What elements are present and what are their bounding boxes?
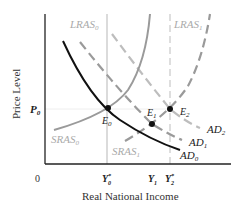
sras0-curve	[54, 14, 150, 130]
y-axis-title: Price Level	[10, 69, 22, 119]
sras1-label: SRAS1	[112, 145, 140, 159]
ad2-label: AD2	[206, 123, 226, 137]
ad0-curve	[63, 41, 180, 150]
sras1-curve	[125, 14, 210, 141]
p0-tick-label: P0	[30, 103, 41, 117]
ad-as-chart: LRAS0 LRAS1 SRAS0 SRAS1 AD2 AD1 AD0 E0 E…	[0, 0, 243, 208]
origin-label: 0	[35, 173, 40, 184]
lras0-label: LRAS0	[69, 18, 99, 32]
ad0-label: AD0	[179, 149, 199, 163]
sras0-label: SRAS0	[51, 133, 79, 147]
e2-point	[167, 106, 173, 112]
ad1-label: AD1	[188, 136, 207, 150]
y2-tick-label: Y*2	[165, 173, 175, 186]
lras1-label: LRAS1	[173, 18, 203, 32]
y0-tick-label: Y*0	[102, 173, 112, 186]
e1-point	[149, 121, 155, 127]
x-axis-title: Real National Income	[82, 190, 179, 202]
e2-label: E2	[179, 106, 190, 119]
ad1-curve	[80, 42, 182, 140]
y1-tick-label: Y1	[148, 173, 157, 186]
e0-point	[105, 105, 111, 111]
